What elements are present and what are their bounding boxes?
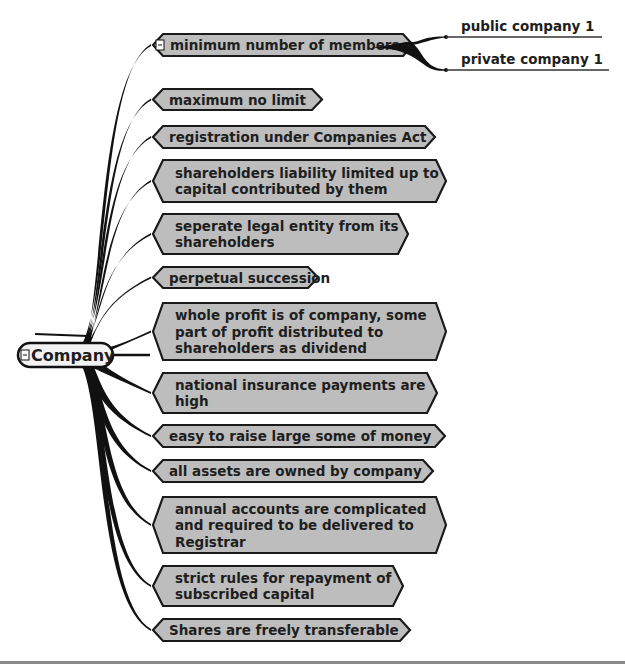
- node-layer: Companyminimum number of memberspublic c…: [18, 18, 609, 641]
- topic-node-label: minimum number of members: [170, 37, 400, 53]
- root-label: Company: [31, 346, 115, 365]
- branch-connector: [80, 44, 151, 362]
- topic-node-label: registration under Companies Act: [169, 129, 427, 145]
- topic-node[interactable]: perpetual succession: [153, 267, 330, 288]
- branch-layer: [80, 44, 151, 631]
- topic-node[interactable]: maximum no limit: [153, 89, 322, 110]
- topic-node[interactable]: all assets are owned by company: [153, 460, 433, 482]
- topic-node[interactable]: national insurance payments arehigh: [153, 373, 437, 413]
- topic-node-label: high: [175, 393, 209, 409]
- topic-node-label: whole profit is of company, some: [175, 307, 427, 323]
- topic-node[interactable]: annual accounts are complicatedand requi…: [153, 497, 446, 553]
- topic-node[interactable]: Shares are freely transferable: [153, 619, 410, 641]
- collapse-toggle[interactable]: [156, 40, 164, 50]
- topic-node[interactable]: whole profit is of company, somepart of …: [153, 303, 446, 360]
- topic-node-label: perpetual succession: [169, 270, 330, 286]
- topic-node-label: seperate legal entity from its: [175, 218, 398, 234]
- topic-node[interactable]: seperate legal entity from itsshareholde…: [153, 214, 408, 254]
- topic-node-label: subscribed capital: [175, 586, 314, 602]
- mind-map-canvas: Companyminimum number of memberspublic c…: [0, 0, 625, 664]
- topic-node-label: shareholders as dividend: [175, 340, 367, 356]
- topic-node-label: strict rules for repayment of: [175, 570, 391, 586]
- root-node-company[interactable]: Company: [18, 334, 150, 367]
- topic-node-label: shareholders liability limited up to: [175, 165, 439, 181]
- subtopic-label: private company 1: [461, 51, 603, 67]
- topic-node[interactable]: minimum number of members: [153, 34, 413, 56]
- topic-node-label: Shares are freely transferable: [169, 622, 399, 638]
- subtopic-label: public company 1: [461, 18, 595, 34]
- root-decoration-line: [35, 334, 88, 336]
- subtopic-node[interactable]: private company 1: [373, 42, 609, 72]
- topic-node[interactable]: shareholders liability limited up tocapi…: [153, 160, 446, 202]
- topic-node-label: annual accounts are complicated: [175, 501, 426, 517]
- topic-node-label: part of profit distributed to: [175, 324, 383, 340]
- topic-node[interactable]: easy to raise large some of money: [153, 425, 445, 447]
- topic-node-label: national insurance payments are: [175, 377, 425, 393]
- topic-node-label: shareholders: [175, 234, 275, 250]
- topic-node-label: capital contributed by them: [175, 181, 388, 197]
- topic-node-label: Registrar: [175, 534, 246, 550]
- topic-node-label: and required to be delivered to: [175, 517, 414, 533]
- branch-connector: [80, 348, 151, 631]
- topic-node[interactable]: strict rules for repayment ofsubscribed …: [153, 566, 403, 606]
- topic-node-label: easy to raise large some of money: [169, 428, 432, 444]
- topic-node-label: maximum no limit: [169, 92, 306, 108]
- topic-node[interactable]: registration under Companies Act: [153, 126, 435, 148]
- topic-node-label: all assets are owned by company: [169, 463, 422, 479]
- collapse-toggle[interactable]: [21, 350, 29, 360]
